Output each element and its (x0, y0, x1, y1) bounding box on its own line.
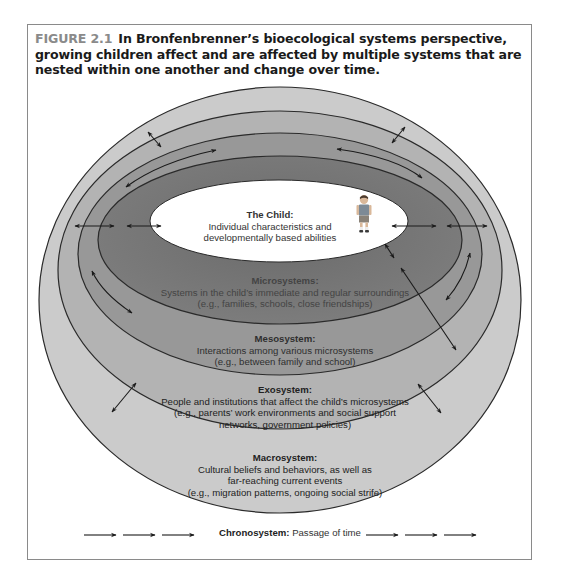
macrosystem-desc-line: (e.g., migration patterns, ongoing socia… (140, 487, 430, 499)
exosystem-desc-line: (e.g., parents’ work environments and so… (140, 407, 430, 419)
microsystems-label: Microsystems: Systems in the child’s imm… (140, 275, 430, 310)
exosystem-title: Exosystem: (140, 384, 430, 396)
macrosystem-label: Macrosystem: Cultural beliefs and behavi… (140, 452, 430, 498)
mesosystem-desc-line: Interactions among various microsystems (160, 345, 410, 357)
chronosystem: Chronosystem: Passage of time (60, 524, 510, 542)
macrosystem-desc-line: Cultural beliefs and behaviors, as well … (140, 464, 430, 476)
exosystem-desc-line: networks, government policies) (140, 419, 430, 431)
chronosystem-label: Chronosystem: Passage of time (210, 527, 370, 538)
microsystems-title: Microsystems: (140, 275, 430, 287)
exosystem-desc-line: People and institutions that affect the … (140, 396, 430, 408)
chronosystem-text: Passage of time (292, 527, 361, 538)
microsystems-desc-line: (e.g., families, schools, close friendsh… (140, 298, 430, 310)
exosystem-label: Exosystem: People and institutions that … (140, 384, 430, 430)
macrosystem-title: Macrosystem: (140, 452, 430, 464)
mesosystem-title: Mesosystem: (160, 333, 410, 345)
chronosystem-title: Chronosystem: (219, 527, 289, 538)
mesosystem-desc-line: (e.g., between family and school) (160, 356, 410, 368)
child-desc-line: developmentally based abilities (185, 232, 355, 244)
child-desc-line: Individual characteristics and (185, 221, 355, 233)
macrosystem-desc-line: far-reaching current events (140, 475, 430, 487)
microsystems-desc-line: Systems in the child’s immediate and reg… (140, 287, 430, 299)
mesosystem-label: Mesosystem: Interactions among various m… (160, 333, 410, 368)
child-label: The Child: Individual characteristics an… (185, 209, 355, 244)
child-title: The Child: (185, 209, 355, 221)
